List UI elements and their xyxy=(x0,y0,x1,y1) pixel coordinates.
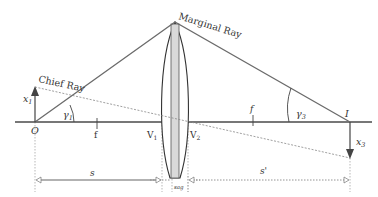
arrowhead-icon xyxy=(344,177,349,183)
lens xyxy=(162,22,189,178)
object-height-label: x1 xyxy=(23,93,33,106)
object-distance-label: s xyxy=(90,168,95,178)
dimension-lines xyxy=(36,177,349,183)
gamma1-label: γ1 xyxy=(63,109,73,122)
marginal-ray xyxy=(35,22,350,122)
arrowhead-icon xyxy=(189,177,194,183)
gamma3-label: γ3 xyxy=(296,108,306,121)
marginal-ray-label: Marginal Ray xyxy=(177,10,243,40)
object-point-label: O xyxy=(31,125,39,136)
arrow-up-icon xyxy=(31,86,39,96)
gamma3-arc xyxy=(287,88,291,122)
image-distance-label: s' xyxy=(260,166,267,176)
lens-diagram: Marginal Ray Chief Ray x1 x3 O I γ1 γ3 f… xyxy=(0,0,378,197)
image-arrow xyxy=(346,122,354,159)
sag-label: sag xyxy=(174,184,184,191)
image-point-label: I xyxy=(344,108,349,119)
chief-ray-label: Chief Ray xyxy=(38,73,87,94)
lens-core xyxy=(171,24,179,178)
vertex2-label: V2 xyxy=(189,130,201,141)
back-focal-label: f xyxy=(249,104,255,114)
arrowhead-icon xyxy=(156,177,161,183)
image-height-label: x3 xyxy=(356,136,366,149)
vertex1-label: V1 xyxy=(146,130,157,141)
arrowhead-icon xyxy=(36,177,41,183)
front-focal-label: f xyxy=(94,130,98,140)
